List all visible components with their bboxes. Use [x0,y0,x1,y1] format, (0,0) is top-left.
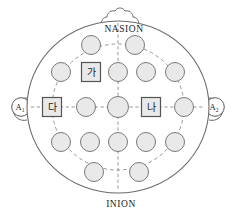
electrode-circle-shape[interactable] [166,133,185,152]
electrode-circle-shape[interactable] [137,133,156,152]
electrode-circle-shape[interactable] [77,98,96,117]
electrode-e13[interactable] [52,133,71,152]
electrode-circle-shape[interactable] [175,98,194,117]
electrode-e6[interactable] [137,63,156,82]
electrode-labeled-e11[interactable]: 나 [142,98,161,117]
electrode-e9[interactable] [77,98,96,117]
electrode-circle-shape[interactable] [130,163,149,182]
electrode-circle-shape[interactable] [81,133,100,152]
electrode-e1[interactable] [82,36,101,55]
electrode-e17[interactable] [166,133,185,152]
electrode-e19[interactable] [130,163,149,182]
electrode-circle-shape[interactable] [108,97,129,118]
electrode-e3[interactable] [52,63,71,82]
eeg-electrode-diagram: A1 A2 NASION INION 가다나 [0,0,236,215]
electrode-circle-shape[interactable] [85,163,104,182]
electrode-circle-shape[interactable] [166,63,185,82]
electrode-circle-shape[interactable] [137,63,156,82]
electrode-e18[interactable] [85,163,104,182]
electrode-e14[interactable] [81,133,100,152]
electrode-circle-shape[interactable] [82,36,101,55]
electrode-e7[interactable] [166,63,185,82]
electrode-circle-shape[interactable] [52,63,71,82]
eeg-head-map-svg: A1 A2 NASION INION 가다나 [0,0,236,215]
electrode-box-label: 가 [87,67,96,78]
electrode-e10[interactable] [108,97,129,118]
electrode-circle-shape[interactable] [52,133,71,152]
electrode-circle-shape[interactable] [126,36,145,55]
electrode-e5[interactable] [109,63,128,82]
electrode-labeled-e8[interactable]: 다 [43,98,62,117]
electrode-circle-shape[interactable] [109,63,128,82]
electrode-e16[interactable] [137,133,156,152]
electrode-labeled-e4[interactable]: 가 [82,63,101,82]
electrode-e12[interactable] [175,98,194,117]
electrode-box-label: 나 [147,102,156,113]
electrode-e2[interactable] [126,36,145,55]
electrode-box-label: 다 [48,102,57,113]
electrode-e15[interactable] [109,133,128,152]
inion-label: INION [106,199,136,209]
electrode-circle-shape[interactable] [109,133,128,152]
nasion-label: NASION [104,24,143,34]
